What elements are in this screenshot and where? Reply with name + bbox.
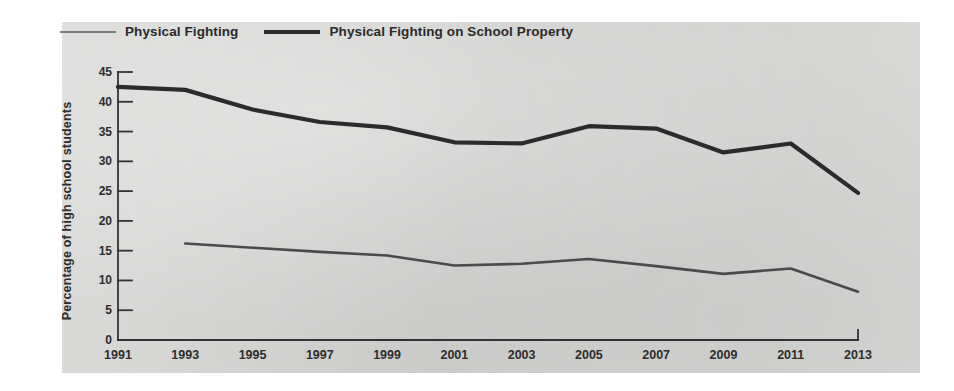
legend-line-swatch-thin [60,31,116,33]
x-axis-tick-label: 1991 [88,348,148,362]
y-axis-tick-label: 35 [82,125,112,139]
y-axis-tick-label: 15 [82,244,112,258]
chart-svg [118,72,858,340]
data-series-line [185,244,858,292]
y-axis-tick-label: 20 [82,214,112,228]
x-axis-tick-label: 2003 [492,348,552,362]
x-axis-tick-label: 2007 [626,348,686,362]
x-axis-tick-label: 2005 [559,348,619,362]
legend-entry-physical-fighting-on-school-property: Physical Fighting on School Property [264,24,573,39]
y-axis-tick-label: 45 [82,65,112,79]
data-series-group [118,87,858,292]
chart-legend: Physical Fighting Physical Fighting on S… [60,24,573,39]
y-axis-tick-label: 40 [82,95,112,109]
legend-entry-physical-fighting: Physical Fighting [60,24,238,39]
legend-line-swatch-thick [264,30,320,34]
x-axis-tick-label: 1995 [223,348,283,362]
x-axis-tick-label: 2013 [828,348,888,362]
plot-area [118,72,858,340]
y-axis-title-text: Percentage of high school students [60,102,74,321]
legend-label: Physical Fighting [125,24,238,39]
data-series-line [118,87,858,193]
y-axis-tick-label: 5 [82,303,112,317]
x-axis-tick-label: 1999 [357,348,417,362]
x-axis-tick-label: 1997 [290,348,350,362]
y-axis-tick-label: 30 [82,154,112,168]
figure: Physical Fighting Physical Fighting on S… [0,0,954,391]
x-axis-tick-label: 1993 [155,348,215,362]
y-axis-tick-label: 10 [82,273,112,287]
y-axis-tick-label: 0 [82,333,112,347]
x-axis-tick-label: 2009 [693,348,753,362]
y-axis-tick-label: 25 [82,184,112,198]
x-axis-tick-labels: 1991199319951997199920012003200520072009… [118,348,858,370]
axis-lines [118,72,858,340]
legend-label: Physical Fighting on School Property [329,24,573,39]
y-axis-tick-labels: 051015202530354045 [78,72,112,340]
x-axis-tick-label: 2001 [424,348,484,362]
y-axis-title: Percentage of high school students [56,96,78,326]
x-axis-tick-label: 2011 [761,348,821,362]
